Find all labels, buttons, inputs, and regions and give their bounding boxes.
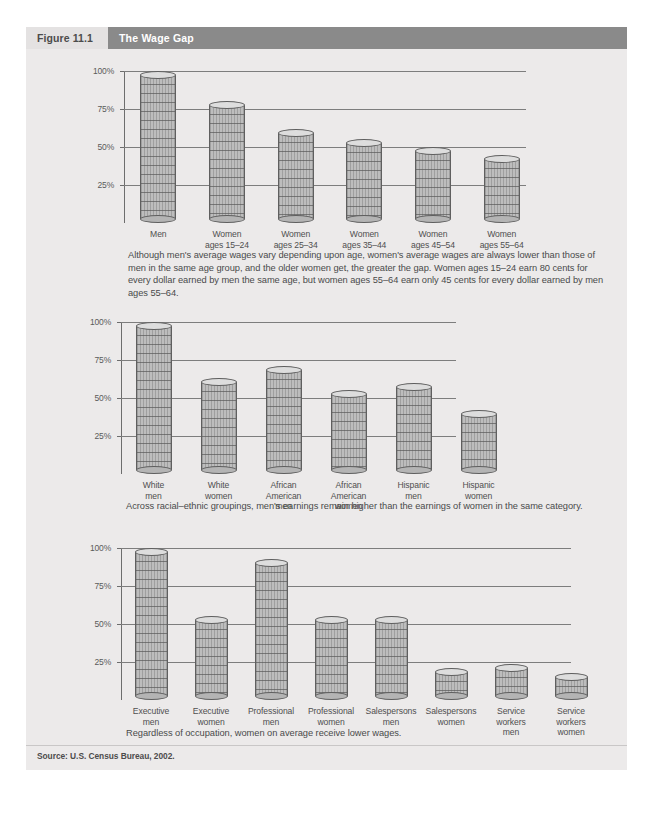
bar-bottom-ellipse (484, 215, 520, 223)
y-axis-label: 25% (81, 657, 111, 667)
y-tick-100 (120, 71, 124, 72)
bar-top-ellipse (266, 366, 302, 374)
gridline-25 (124, 185, 526, 186)
bar-5 (415, 147, 451, 223)
bar-2 (201, 378, 237, 474)
bar-bottom-ellipse (140, 215, 176, 223)
bar-body (461, 414, 497, 470)
bar-4 (315, 616, 348, 700)
category-label: Hispanicwomen (440, 480, 517, 501)
gridline-50 (124, 147, 526, 148)
bar-8 (555, 673, 588, 700)
gridline-100 (121, 548, 571, 549)
source-divider (26, 745, 627, 746)
bar-body (201, 382, 237, 470)
bar-5 (396, 383, 432, 474)
gridline-75 (121, 586, 571, 587)
bar-2 (195, 616, 228, 700)
y-tick-50 (120, 147, 124, 148)
bar-bottom-ellipse (495, 692, 528, 700)
bar-top-ellipse (495, 664, 528, 672)
y-axis-label: 25% (84, 180, 114, 190)
bar-bottom-ellipse (209, 215, 245, 223)
y-tick-50 (117, 398, 121, 399)
y-axis-label: 75% (81, 581, 111, 591)
bar-1 (136, 322, 172, 474)
figure-number: Figure 11.1 (37, 27, 93, 49)
bar-bottom-ellipse (136, 466, 172, 474)
bar-body (278, 133, 314, 219)
figure-title: The Wage Gap (119, 32, 194, 44)
y-tick-75 (117, 586, 121, 587)
figure-panel: Figure 11.1 The Wage Gap 25%50%75%100%Me… (26, 27, 627, 770)
bar-body (136, 326, 172, 470)
caption-chart-1: Although men's average wages vary depend… (128, 249, 604, 299)
bar-5 (375, 616, 408, 700)
gridline-100 (124, 71, 526, 72)
bar-bottom-ellipse (195, 692, 228, 700)
category-label-line: workers (535, 717, 607, 728)
category-label-line: Hispanic (440, 480, 517, 491)
y-axis-label: 50% (81, 619, 111, 629)
bar-body (255, 563, 288, 696)
bar-1 (135, 548, 168, 700)
bar-body (315, 620, 348, 696)
bar-body (209, 105, 245, 219)
bar-bottom-ellipse (435, 692, 468, 700)
bar-4 (346, 139, 382, 223)
y-axis-label: 75% (81, 355, 111, 365)
bar-bottom-ellipse (331, 466, 367, 474)
bar-body (396, 387, 432, 470)
y-tick-50 (117, 624, 121, 625)
bar-7 (495, 664, 528, 700)
y-tick-25 (120, 185, 124, 186)
category-label-line: Women (461, 229, 542, 240)
bar-bottom-ellipse (278, 215, 314, 223)
bar-body (266, 370, 302, 470)
bar-6 (461, 410, 497, 474)
bar-top-ellipse (555, 673, 588, 681)
y-axis-label: 100% (81, 543, 111, 553)
figure-header: Figure 11.1 The Wage Gap (26, 27, 627, 49)
bar-bottom-ellipse (315, 692, 348, 700)
bar-bottom-ellipse (201, 466, 237, 474)
bar-body (331, 394, 367, 470)
bar-top-ellipse (136, 322, 172, 330)
y-axis-label: 50% (84, 142, 114, 152)
y-tick-75 (117, 360, 121, 361)
bar-top-ellipse (461, 410, 497, 418)
y-tick-100 (117, 548, 121, 549)
bar-top-ellipse (135, 548, 168, 556)
bar-4 (331, 390, 367, 474)
y-axis-label: 100% (84, 66, 114, 76)
y-axis-label: 75% (84, 104, 114, 114)
bar-3 (266, 366, 302, 474)
bar-bottom-ellipse (375, 692, 408, 700)
bar-body (195, 620, 228, 696)
bar-bottom-ellipse (461, 466, 497, 474)
figure-title-bar: The Wage Gap (108, 27, 627, 49)
caption-chart-3: Regardless of occupation, women on avera… (126, 727, 602, 740)
bar-bottom-ellipse (255, 692, 288, 700)
caption-chart-2: Across racial–ethnic groupings, men's ea… (126, 500, 602, 513)
y-tick-25 (117, 662, 121, 663)
gridline-75 (124, 109, 526, 110)
y-axis-label: 50% (81, 393, 111, 403)
y-axis-label: 25% (81, 431, 111, 441)
bar-top-ellipse (278, 129, 314, 137)
bar-bottom-ellipse (135, 692, 168, 700)
bar-top-ellipse (396, 383, 432, 391)
y-tick-25 (117, 436, 121, 437)
bar-bottom-ellipse (266, 466, 302, 474)
category-label: Womenages 55–64 (461, 229, 542, 250)
bar-body (346, 143, 382, 219)
bar-body (415, 151, 451, 219)
bar-1 (140, 71, 176, 223)
bar-3 (278, 129, 314, 223)
y-tick-100 (117, 322, 121, 323)
figure-source: Source: U.S. Census Bureau, 2002. (37, 751, 175, 761)
y-axis-label: 100% (81, 317, 111, 327)
bar-top-ellipse (484, 155, 520, 163)
category-label-line: Service (535, 706, 607, 717)
bar-bottom-ellipse (415, 215, 451, 223)
